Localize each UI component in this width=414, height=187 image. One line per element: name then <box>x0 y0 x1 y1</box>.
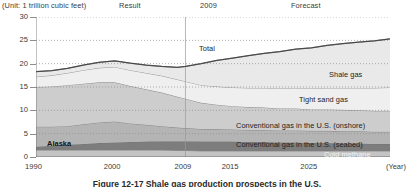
y-tick-30: 30 <box>6 12 28 21</box>
x-tick-2000: 2000 <box>104 162 121 171</box>
series-label-seabed: Conventional gas in the U.S. (seabed) <box>236 140 363 149</box>
y-tick-mark <box>30 110 36 111</box>
series-label-shale: Shale gas <box>329 70 362 79</box>
y-tick-20: 20 <box>6 59 28 68</box>
result-period-label: Result <box>119 1 141 10</box>
y-tick-0: 0 <box>6 152 28 161</box>
y-tick-mark <box>30 40 36 41</box>
series-label-coal: Cold methane <box>324 150 371 159</box>
y-tick-10: 10 <box>6 105 28 114</box>
y-tick-mark <box>30 134 36 135</box>
figure-caption: Figure 12-17 Shale gas production prospe… <box>0 179 414 187</box>
x-tick-2015: 2015 <box>222 162 239 171</box>
series-label-alaska: Alaska <box>47 139 71 148</box>
forecast-period-label: Forecast <box>291 1 321 10</box>
x-axis-unit-label: (Year) <box>386 162 406 171</box>
divider-year-label: 2009 <box>200 1 217 10</box>
y-tick-25: 25 <box>6 35 28 44</box>
chart-figure: (Unit: 1 trillion cubic feet) Result 200… <box>0 0 414 187</box>
y-tick-15: 15 <box>6 82 28 91</box>
y-tick-mark <box>30 87 36 88</box>
plot-area <box>36 17 390 157</box>
series-label-total: Total <box>199 44 215 53</box>
unit-label: (Unit: 1 trillion cubic feet) <box>2 1 86 10</box>
x-tick-1990: 1990 <box>25 162 42 171</box>
series-label-tight: Tight sand gas <box>299 95 348 104</box>
series-label-onshore: Conventional gas in the U.S. (onshore) <box>236 121 365 130</box>
x-tick-2025: 2025 <box>300 162 317 171</box>
x-tick-2009: 2009 <box>174 162 191 171</box>
y-tick-mark <box>30 157 36 158</box>
y-tick-5: 5 <box>6 129 28 138</box>
stacked-area-chart <box>36 17 390 157</box>
y-tick-mark <box>30 64 36 65</box>
y-tick-mark <box>30 17 36 18</box>
